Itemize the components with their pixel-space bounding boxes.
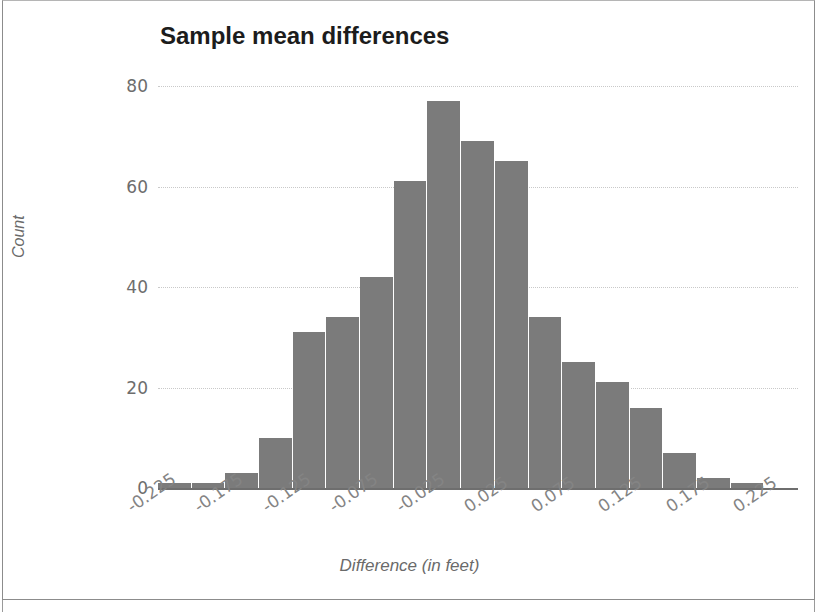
x-axis-title: Difference (in feet) xyxy=(0,556,819,576)
y-axis-title: Count xyxy=(10,215,28,258)
histogram-bar xyxy=(596,382,630,488)
histogram-bar xyxy=(461,141,495,488)
y-tick-label: 20 xyxy=(126,378,148,398)
figure-border-footer xyxy=(2,600,815,612)
histogram-bar xyxy=(326,317,360,488)
bar-series xyxy=(158,86,798,488)
page-title: Sample mean differences xyxy=(160,22,449,50)
histogram-bar xyxy=(562,362,596,488)
histogram-screenshot: Sample mean differences 020406080 -0.225… xyxy=(0,0,819,612)
histogram-bar xyxy=(495,161,529,488)
y-tick-label: 80 xyxy=(126,76,148,96)
histogram-bar xyxy=(529,317,563,488)
histogram-bar xyxy=(293,332,327,488)
y-tick-label: 60 xyxy=(126,177,148,197)
histogram-bar xyxy=(394,181,428,488)
y-tick-label: 40 xyxy=(126,277,148,297)
histogram-bar xyxy=(427,101,461,488)
histogram-bar xyxy=(360,277,394,488)
